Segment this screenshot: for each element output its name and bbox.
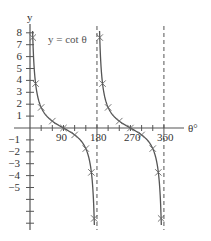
data-marker-x [71,132,77,138]
y-tick-label: 1 [8,110,22,121]
x-tick-label-90: 90 [56,132,67,143]
equation-label: y = cot θ [48,34,87,45]
y-tick-label: 2 [8,98,22,109]
y-tick-label: −4 [6,170,20,181]
y-tick-label: −5 [6,182,20,193]
y-tick-label: 8 [8,27,22,38]
y-axis-label: y [27,12,33,23]
data-marker-x [49,118,55,124]
y-tick-label: −2 [6,146,20,157]
data-marker-x [38,104,44,110]
y-tick-label: 7 [8,39,22,50]
data-marker-x [150,145,156,151]
y-tick-label: −1 [6,134,20,145]
data-marker-x [105,104,111,110]
x-axis-label: θ° [188,123,198,134]
y-tick-label: 6 [8,51,22,62]
x-tick-label-360: 360 [157,132,174,143]
plot-area [0,0,211,241]
y-tick-label: 3 [8,86,22,97]
x-tick-label-180: 180 [90,132,107,143]
y-tick-label: 4 [8,74,22,85]
x-tick-label-270: 270 [124,132,141,143]
y-tick-label: −3 [6,158,20,169]
cot-chart: y θ° y = cot θ 90 180 270 360 87654321−1… [0,0,211,241]
y-tick-label: 5 [8,63,22,74]
data-marker-x [83,145,89,151]
data-marker-x [116,118,122,124]
